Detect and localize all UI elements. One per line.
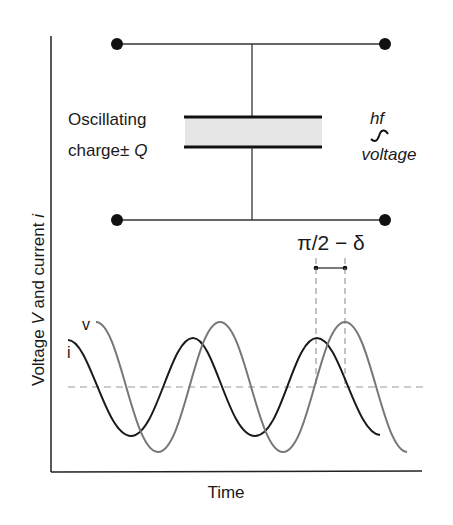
sine-wave-icon	[371, 130, 388, 141]
y-axis-label: Voltage V and current i	[29, 213, 48, 386]
bottom-left-terminal	[111, 214, 123, 226]
plus-minus-symbol: ±	[120, 141, 129, 160]
x-axis	[51, 471, 422, 472]
top-right-terminal	[379, 38, 391, 50]
voltage-label: voltage	[362, 145, 417, 164]
capacitor-phase-diagram: Oscillating charge±Q hf voltage Voltage …	[0, 0, 453, 525]
graph: Voltage V and current i Time π/2 − δ v i	[29, 36, 426, 502]
hf-label: hf	[370, 109, 386, 128]
voltage-curve-label: v	[82, 316, 90, 333]
top-left-terminal	[111, 38, 123, 50]
x-axis-label: Time	[207, 483, 244, 502]
bottom-right-terminal	[379, 214, 391, 226]
dielectric	[185, 118, 322, 147]
phase-difference-label: π/2 − δ	[297, 231, 365, 254]
capacitor-circuit: Oscillating charge±Q hf voltage	[68, 38, 416, 226]
oscillating-label: Oscillating	[68, 110, 146, 129]
current-curve-label: i	[67, 344, 71, 361]
charge-label: charge±Q	[68, 141, 148, 160]
